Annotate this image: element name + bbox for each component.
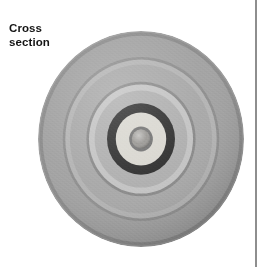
disc-lighting bbox=[38, 31, 244, 247]
cross-section-photograph bbox=[38, 31, 244, 247]
vertical-rule bbox=[255, 0, 257, 267]
ring-stack bbox=[38, 31, 244, 247]
top-cut-caption bbox=[0, 0, 250, 2]
figure-page: Cross section bbox=[0, 0, 267, 267]
